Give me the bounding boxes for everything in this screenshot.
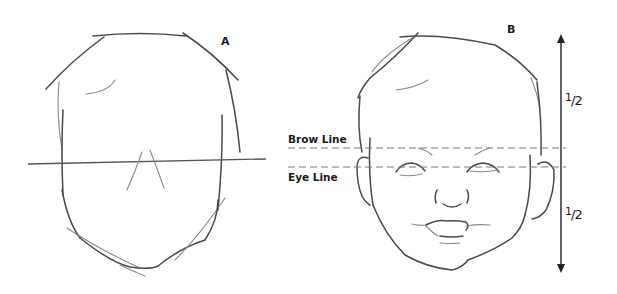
panel-b-baby-face — [357, 33, 554, 270]
eye-line-label: Eye Line — [288, 171, 338, 183]
panel-a-center-line — [28, 159, 266, 164]
sketch-drawing — [0, 0, 617, 294]
half-measure-arrow — [557, 34, 565, 273]
panel-a-label: A — [221, 35, 230, 48]
head-proportion-diagram: A B Brow Line Eye Line 1/2 1/2 — [0, 0, 617, 294]
lower-half-fraction: 1/2 — [565, 205, 582, 222]
upper-fraction-denominator: /2 — [571, 93, 582, 108]
panel-a-head-sketch — [28, 33, 266, 276]
brow-line-label: Brow Line — [288, 133, 347, 145]
panel-b-label: B — [507, 23, 515, 36]
lower-fraction-denominator: /2 — [571, 207, 582, 222]
upper-half-fraction: 1/2 — [565, 91, 582, 108]
